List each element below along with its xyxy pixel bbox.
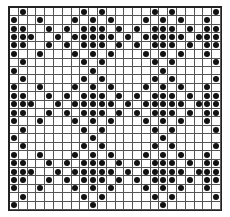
grid-cell bbox=[19, 92, 28, 100]
grid-cell bbox=[72, 84, 81, 92]
dot-icon bbox=[20, 177, 26, 183]
grid-cell bbox=[36, 202, 45, 210]
grid-cell bbox=[195, 50, 204, 58]
dot-icon bbox=[90, 177, 96, 183]
grid-cell bbox=[133, 134, 142, 142]
grid-cell bbox=[151, 33, 160, 41]
dot-icon bbox=[213, 110, 219, 116]
dot-icon bbox=[152, 169, 158, 175]
dot-icon bbox=[116, 110, 122, 116]
grid-cell bbox=[45, 202, 54, 210]
grid-cell bbox=[72, 176, 81, 184]
grid-cell bbox=[19, 176, 28, 184]
grid-cell bbox=[10, 50, 19, 58]
grid-cell bbox=[168, 117, 177, 125]
grid-cell bbox=[212, 50, 221, 58]
dot-icon bbox=[187, 26, 193, 32]
grid-cell bbox=[89, 134, 98, 142]
dot-icon bbox=[178, 185, 184, 191]
dot-icon bbox=[204, 160, 210, 166]
grid-cell bbox=[89, 176, 98, 184]
grid-cell bbox=[28, 50, 37, 58]
grid-cell bbox=[63, 160, 72, 168]
grid-cell bbox=[107, 134, 116, 142]
dot-icon bbox=[134, 110, 140, 116]
grid-cell bbox=[36, 42, 45, 50]
dot-icon bbox=[72, 185, 78, 191]
grid-cell bbox=[45, 193, 54, 201]
grid-cell bbox=[159, 126, 168, 134]
grid-cell bbox=[168, 59, 177, 67]
grid-cell bbox=[212, 185, 221, 193]
grid-cell bbox=[116, 16, 125, 24]
grid-cell bbox=[98, 50, 107, 58]
dot-icon bbox=[152, 127, 158, 133]
grid-cell bbox=[89, 117, 98, 125]
grid-cell bbox=[107, 59, 116, 67]
dot-icon bbox=[99, 160, 105, 166]
dot-icon bbox=[11, 185, 17, 191]
grid-cell bbox=[159, 134, 168, 142]
dot-icon bbox=[213, 160, 219, 166]
grid-cell bbox=[36, 126, 45, 134]
grid-cell bbox=[124, 16, 133, 24]
dot-icon bbox=[187, 110, 193, 116]
grid-cell bbox=[98, 8, 107, 16]
dot-icon bbox=[152, 101, 158, 107]
grid-cell bbox=[124, 59, 133, 67]
dot-icon bbox=[213, 9, 219, 15]
dot-icon bbox=[72, 169, 78, 175]
grid-cell bbox=[212, 8, 221, 16]
grid-cell bbox=[203, 185, 212, 193]
grid-cell bbox=[212, 134, 221, 142]
dot-icon bbox=[213, 101, 219, 107]
grid-cell bbox=[142, 25, 151, 33]
grid-cell bbox=[36, 151, 45, 159]
grid-cell bbox=[10, 42, 19, 50]
grid-cell bbox=[186, 193, 195, 201]
dot-icon bbox=[169, 101, 175, 107]
dot-icon bbox=[178, 84, 184, 90]
dot-icon bbox=[20, 143, 26, 149]
grid-cell bbox=[19, 168, 28, 176]
grid-cell bbox=[212, 67, 221, 75]
grid-cell bbox=[80, 160, 89, 168]
grid-cell bbox=[72, 8, 81, 16]
grid-cell bbox=[98, 75, 107, 83]
grid-cell bbox=[45, 109, 54, 117]
grid-cell bbox=[116, 59, 125, 67]
dot-icon bbox=[55, 101, 61, 107]
grid-cell bbox=[63, 151, 72, 159]
grid-cell bbox=[116, 134, 125, 142]
grid-cell bbox=[168, 75, 177, 83]
grid-cell bbox=[124, 8, 133, 16]
grid-cell bbox=[80, 25, 89, 33]
grid-cell bbox=[124, 33, 133, 41]
dot-icon bbox=[204, 51, 210, 57]
dot-icon bbox=[11, 160, 17, 166]
grid-cell bbox=[107, 202, 116, 210]
grid-cell bbox=[159, 168, 168, 176]
grid-cell bbox=[28, 101, 37, 109]
grid-cell bbox=[168, 50, 177, 58]
dot-icon bbox=[90, 17, 96, 23]
grid-cell bbox=[28, 193, 37, 201]
grid-cell bbox=[142, 193, 151, 201]
grid-cell bbox=[28, 168, 37, 176]
grid-cell bbox=[28, 42, 37, 50]
dot-icon bbox=[81, 9, 87, 15]
grid-cell bbox=[54, 92, 63, 100]
grid-cell bbox=[80, 117, 89, 125]
dot-icon bbox=[160, 118, 166, 124]
grid-cell bbox=[151, 42, 160, 50]
grid-cell bbox=[186, 8, 195, 16]
grid-cell bbox=[80, 185, 89, 193]
grid-cell bbox=[63, 16, 72, 24]
grid-cell bbox=[28, 8, 37, 16]
grid-cell bbox=[151, 101, 160, 109]
grid-cell bbox=[133, 185, 142, 193]
grid-cell bbox=[186, 151, 195, 159]
grid-cell bbox=[98, 168, 107, 176]
grid-cell bbox=[116, 151, 125, 159]
grid-cell bbox=[195, 193, 204, 201]
